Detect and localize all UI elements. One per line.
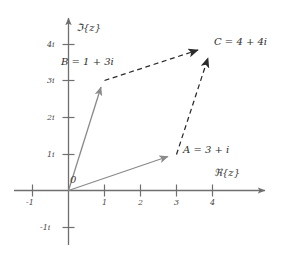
vector-BC	[105, 50, 199, 81]
point-label-c: C = 4 + 4i	[214, 36, 267, 47]
y-tick-label-2i: 2i	[47, 113, 55, 122]
x-tick-label-3: 3	[174, 198, 179, 207]
complex-plane-figure: ℑ{z} ℜ{z} -1 1 2 3 4 4i 3i 2i 1i -1i 0 A…	[0, 0, 284, 253]
point-label-a: A = 3 + i	[183, 144, 229, 155]
point-label-b: B = 1 + 3i	[61, 56, 114, 67]
x-tick-label-1: 1	[102, 198, 107, 207]
y-axis-label: ℑ{z}	[76, 22, 101, 33]
vector-AC	[177, 58, 209, 155]
axis-lines	[14, 18, 265, 245]
x-tick-label-2: 2	[138, 198, 143, 207]
y-tick-label-4i: 4i	[47, 40, 55, 49]
y-tick-label-neg1i: -1i	[40, 223, 50, 232]
y-tick-label-1i: 1i	[47, 150, 55, 159]
x-tick-label-neg1: -1	[26, 198, 34, 207]
x-axis-label: ℜ{z}	[214, 167, 240, 178]
origin-label: 0	[70, 174, 76, 185]
y-tick-label-3i: 3i	[47, 76, 55, 85]
x-tick-label-4: 4	[210, 198, 215, 207]
vector-0A	[69, 157, 169, 191]
